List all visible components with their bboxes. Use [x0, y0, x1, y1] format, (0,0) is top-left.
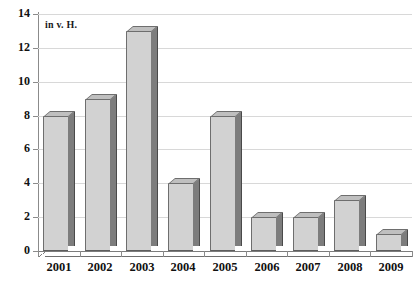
- bar-side-face: [110, 94, 117, 246]
- x-axis-tick: [121, 251, 122, 257]
- x-axis-tick: [38, 251, 39, 257]
- x-axis-tick: [204, 251, 205, 257]
- bar-front-face: [293, 217, 318, 251]
- bar-front-face: [210, 116, 235, 251]
- x-axis-tick: [370, 251, 371, 257]
- x-axis-tick: [329, 251, 330, 257]
- bar-front-face: [376, 234, 401, 251]
- x-axis-tick: [287, 251, 288, 257]
- bar-front-face: [251, 217, 276, 251]
- y-axis-tick-label: 2: [2, 211, 30, 221]
- x-axis-tick: [246, 251, 247, 257]
- bar-front-face: [334, 200, 359, 251]
- y-axis-tick-label: 4: [2, 177, 30, 187]
- x-axis-tick: [163, 251, 164, 257]
- y-axis-tick: [33, 183, 38, 184]
- bar: [210, 116, 235, 251]
- bar-front-face: [85, 99, 110, 251]
- y-axis-tick-label: 12: [2, 42, 30, 52]
- y-axis-tick: [33, 149, 38, 150]
- y-axis-tick: [33, 82, 38, 83]
- bar-front-face: [43, 116, 68, 251]
- y-axis-tick: [33, 48, 38, 49]
- bar-side-face: [193, 178, 200, 246]
- baseline-depth: [45, 256, 412, 257]
- y-axis-tick-label: 10: [2, 76, 30, 86]
- bar: [293, 217, 318, 251]
- unit-annotation: in v. H.: [45, 19, 77, 30]
- x-axis-tick: [80, 251, 81, 257]
- x-axis-tick: [412, 251, 413, 257]
- bar: [126, 31, 151, 251]
- y-axis-tick-label: 14: [2, 8, 30, 18]
- y-axis-tick: [33, 116, 38, 117]
- y-axis-tick-label: 8: [2, 110, 30, 120]
- bar-front-face: [168, 183, 193, 251]
- baseline-slope: [38, 251, 46, 257]
- y-axis-tick: [33, 14, 38, 15]
- gridline: [38, 82, 412, 83]
- bar: [376, 234, 401, 251]
- bar: [334, 200, 359, 251]
- bar: [43, 116, 68, 251]
- bar-side-face: [151, 26, 158, 246]
- bar-side-face: [68, 111, 75, 246]
- gridline: [38, 48, 412, 49]
- bar: [251, 217, 276, 251]
- bar-side-face: [235, 111, 242, 246]
- bar: [85, 99, 110, 251]
- bar: [168, 183, 193, 251]
- y-axis-tick-label: 0: [2, 245, 30, 255]
- x-axis-label: 2009: [363, 260, 417, 275]
- baseline: [38, 251, 412, 252]
- y-axis-tick-label: 6: [2, 143, 30, 153]
- gridline: [38, 14, 412, 15]
- y-axis-tick: [33, 217, 38, 218]
- bar-front-face: [126, 31, 151, 251]
- bar-chart: 02468101214 2001200220032004200520062007…: [0, 0, 417, 285]
- bar-side-face: [359, 195, 366, 246]
